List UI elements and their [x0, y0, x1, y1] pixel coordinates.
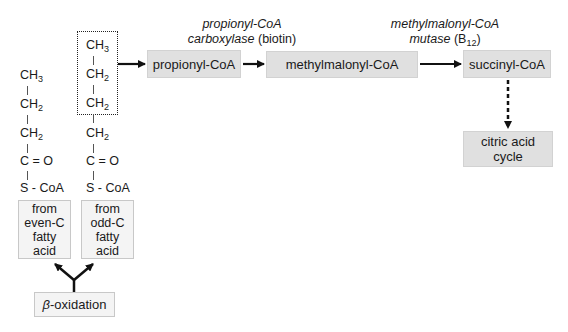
enzyme-name: carboxylase: [188, 32, 255, 46]
enzyme-mutase-label: methylmalonyl-CoA mutase (B12): [380, 17, 510, 47]
enzyme-name: propionyl-CoA: [202, 17, 281, 31]
bond: [27, 86, 28, 95]
odd-atom-carbonyl: C = O: [86, 154, 119, 168]
node-label: propionyl-CoA: [153, 57, 235, 72]
enzyme-name: mutase: [409, 32, 450, 46]
even-atom-scoa: S - CoA: [20, 181, 64, 195]
odd-atom-ch2: CH2: [86, 67, 109, 81]
bond: [27, 115, 28, 124]
node-label: methylmalonyl-CoA: [286, 57, 399, 72]
odd-atom-scoa: S - CoA: [86, 181, 130, 195]
fork-left-arrow: [55, 264, 74, 280]
bond: [27, 171, 28, 180]
even-atom-ch3: CH3: [20, 68, 43, 82]
label-line: acid: [90, 244, 124, 258]
bond: [93, 85, 94, 94]
fork-right-arrow: [74, 264, 93, 280]
odd-atom-ch2: CH2: [86, 96, 109, 110]
node-label: cycle: [481, 149, 535, 164]
beta-oxidation-label: -oxidation: [50, 297, 106, 312]
bond: [93, 171, 94, 180]
enzyme-name: methylmalonyl-CoA: [391, 17, 499, 31]
label-line: odd-C: [90, 216, 124, 230]
bond: [27, 144, 28, 153]
cofactor: (biotin): [255, 32, 297, 46]
label-line: acid: [24, 244, 64, 258]
label-line: from: [24, 202, 64, 216]
node-label: citric acid: [481, 134, 535, 149]
even-atom-ch2: CH2: [20, 97, 43, 111]
cofactor: (B: [450, 32, 466, 46]
beta-symbol: β: [43, 297, 50, 312]
bond: [93, 114, 94, 123]
cofactor: ): [476, 32, 480, 46]
cofactor-subscript: 12: [466, 38, 476, 48]
label-line: from: [90, 202, 124, 216]
even-source-box: from even-C fatty acid: [18, 200, 71, 259]
odd-source-box: from odd-C fatty acid: [81, 200, 134, 259]
node-citric-acid-cycle: citric acid cycle: [463, 131, 553, 167]
bond: [93, 144, 94, 153]
label-line: fatty: [90, 230, 124, 244]
node-propionyl-coa: propionyl-CoA: [147, 50, 241, 78]
node-succinyl-coa: succinyl-CoA: [463, 50, 551, 78]
bond: [93, 56, 94, 65]
odd-atom-ch3: CH3: [86, 38, 109, 52]
beta-oxidation-box: β-oxidation: [34, 292, 115, 317]
odd-atom-ch2: CH2: [86, 126, 109, 140]
label-line: even-C: [24, 216, 64, 230]
even-atom-ch2: CH2: [20, 126, 43, 140]
even-atom-carbonyl: C = O: [20, 154, 53, 168]
label-line: fatty: [24, 230, 64, 244]
enzyme-carboxylase-label: propionyl-CoA carboxylase (biotin): [182, 17, 302, 47]
node-label: succinyl-CoA: [469, 57, 545, 72]
node-methylmalonyl-coa: methylmalonyl-CoA: [266, 51, 418, 78]
